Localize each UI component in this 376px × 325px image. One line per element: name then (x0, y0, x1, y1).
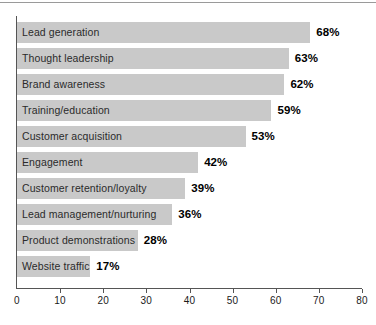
bar-value-label: 53% (252, 126, 275, 147)
x-axis-tick-label: 20 (97, 295, 109, 306)
x-axis-tick-label: 40 (184, 295, 196, 306)
bar-category-label: Lead generation (22, 22, 99, 43)
bar-value-label: 36% (178, 204, 201, 225)
x-axis-tick-label: 10 (54, 295, 66, 306)
bar-row[interactable]: Lead generation68% (17, 22, 362, 43)
bar-category-label: Brand awareness (22, 74, 105, 95)
bar-row[interactable]: Thought leadership63% (17, 48, 362, 69)
bar-row[interactable]: Lead management/nurturing36% (17, 204, 362, 225)
x-axis-tick-label: 30 (141, 295, 153, 306)
bar-category-label: Website traffic (22, 256, 90, 277)
bar-row[interactable]: Training/education59% (17, 100, 362, 121)
bar-value-label: 17% (96, 256, 119, 277)
bar-value-label: 28% (144, 230, 167, 251)
x-axis-tick (233, 289, 234, 293)
bar-category-label: Product demonstrations (22, 230, 135, 251)
x-axis-tick (362, 289, 363, 293)
bar-row[interactable]: Customer acquisition53% (17, 126, 362, 147)
x-axis-tick (60, 289, 61, 293)
bar-value-label: 42% (204, 152, 227, 173)
bar-value-label: 59% (277, 100, 300, 121)
bar-row[interactable]: Brand awareness62% (17, 74, 362, 95)
x-axis-tick-label: 70 (313, 295, 325, 306)
x-axis-tick (276, 289, 277, 293)
plot-area: Lead generation68%Thought leadership63%B… (0, 0, 376, 325)
bar-row[interactable]: Product demonstrations28% (17, 230, 362, 251)
bar-value-label: 39% (191, 178, 214, 199)
x-axis-tick (319, 289, 320, 293)
bar-category-label: Customer retention/loyalty (22, 178, 147, 199)
bar-value-label: 63% (295, 48, 318, 69)
chart-figure: Lead generation68%Thought leadership63%B… (0, 0, 376, 325)
bar-row[interactable]: Engagement42% (17, 152, 362, 173)
bar-row[interactable]: Customer retention/loyalty39% (17, 178, 362, 199)
x-axis-tick (146, 289, 147, 293)
bar-category-label: Lead management/nurturing (22, 204, 156, 225)
bar-category-label: Customer acquisition (22, 126, 122, 147)
x-axis-tick-label: 50 (227, 295, 239, 306)
bar-value-label: 68% (316, 22, 339, 43)
bar-category-label: Engagement (22, 152, 83, 173)
bar-category-label: Thought leadership (22, 48, 114, 69)
x-axis-tick-label: 60 (270, 295, 282, 306)
x-axis-tick (190, 289, 191, 293)
bar-row[interactable]: Website traffic17% (17, 256, 362, 277)
x-axis-tick-label: 80 (356, 295, 368, 306)
x-axis-tick-label: 0 (14, 295, 20, 306)
bar-value-label: 62% (290, 74, 313, 95)
x-axis-tick (103, 289, 104, 293)
bar-category-label: Training/education (22, 100, 110, 121)
